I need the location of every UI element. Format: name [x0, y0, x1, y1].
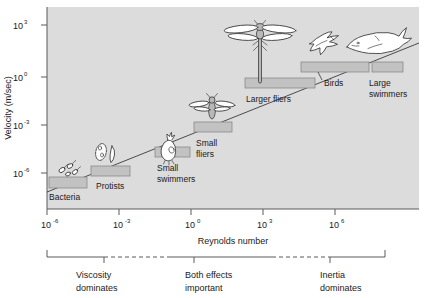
data-box-label-bacteria: Bacteria: [49, 192, 80, 202]
x-tick-label-2: 10: [185, 220, 195, 230]
data-box-bacteria: [49, 177, 87, 188]
data-box-label-birds: Birds: [324, 78, 343, 88]
x-tick-label-3: 10: [257, 220, 267, 230]
y-tick-exponent-2: -3: [24, 119, 30, 125]
regime-label-both-line2: important: [185, 283, 223, 293]
data-box-label-small-swimmers-line2: swimmers: [157, 174, 195, 184]
y-tick-group: [41, 25, 47, 173]
data-box-label-protists: Protists: [96, 181, 124, 191]
data-box-protists: [91, 166, 130, 176]
data-box-small-fliers: [194, 122, 232, 132]
data-box-label-large-swimmers-line2: swimmers: [369, 89, 407, 99]
x-axis-title: Reynolds number: [198, 236, 269, 246]
x-tick-label-1: 10: [113, 220, 123, 230]
regime-label-inertia-line1: Inertia: [320, 270, 345, 280]
data-box-label-larger-fliers: Larger fliers: [246, 94, 291, 104]
y-tick-label-3: 10: [13, 169, 23, 179]
x-tick-exponent-2: 0: [197, 218, 201, 224]
regime-label-viscosity-line2: dominates: [76, 283, 118, 293]
y-tick-label-1: 10: [13, 73, 23, 83]
y-axis-title: Velocity (m/sec): [3, 76, 13, 140]
regime-bracket-group: [47, 250, 385, 263]
x-tick-group: [47, 209, 335, 215]
regime-label-viscosity-line1: Viscosity: [76, 270, 112, 280]
regime-labels: Viscosity dominates Both effects importa…: [76, 270, 362, 293]
data-box-label-small-fliers-line1: Small: [196, 138, 217, 148]
data-box-large-swimmers: [372, 62, 403, 72]
y-tick-exponent-1: 0: [24, 71, 28, 77]
reynolds-velocity-chart: 10 3 10 0 10 -3 10 -6 Velocity (m/sec) 1…: [0, 0, 425, 298]
chart-figure: 10 3 10 0 10 -3 10 -6 Velocity (m/sec) 1…: [0, 0, 425, 298]
regime-label-inertia-line2: dominates: [320, 283, 362, 293]
y-tick-exponent-3: -6: [24, 167, 30, 173]
y-tick-exponent-0: 3: [24, 19, 28, 25]
x-tick-exponent-0: -6: [53, 218, 59, 224]
x-tick-exponent-4: 6: [341, 218, 345, 224]
y-tick-label-0: 10: [13, 21, 23, 31]
y-tick-label-2: 10: [13, 121, 23, 131]
data-box-label-small-swimmers-line1: Small: [157, 163, 178, 173]
data-box-birds: [301, 62, 369, 72]
y-tick-labels: 10 3 10 0 10 -3 10 -6: [13, 19, 30, 179]
data-box-label-small-fliers-line2: fliers: [196, 149, 214, 159]
x-tick-exponent-1: -3: [125, 218, 131, 224]
regime-label-both-line1: Both effects: [185, 270, 233, 280]
x-tick-exponent-3: 3: [269, 218, 273, 224]
x-tick-labels: 10 -6 10 -3 10 0 10 3 10 6: [41, 218, 345, 230]
data-box-label-large-swimmers-line1: Large: [369, 78, 391, 88]
x-tick-label-0: 10: [41, 220, 51, 230]
x-tick-label-4: 10: [329, 220, 339, 230]
data-box-larger-fliers: [245, 78, 315, 88]
